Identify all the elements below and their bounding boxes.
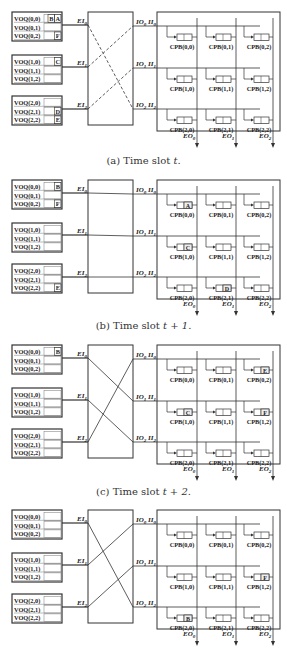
switch-connection xyxy=(88,566,133,607)
eo-arrow-icon xyxy=(271,476,275,481)
voq-label: VOQ(1,2) xyxy=(14,243,40,251)
caption-c-var: t + 2. xyxy=(163,486,191,497)
eo-label-1: EO1 xyxy=(221,132,234,141)
eo-label-0-sub: 0 xyxy=(193,634,196,639)
ei-label-1-sub: 1 xyxy=(84,231,87,236)
voq-label: VOQ(2,1) xyxy=(14,108,40,116)
cpb-label: CPB(1,0) xyxy=(170,583,195,591)
arrow-icon xyxy=(174,204,177,207)
io-label-2-sub: 2 xyxy=(143,273,147,278)
voq-queue xyxy=(44,573,61,581)
packet-A: A xyxy=(186,203,191,209)
ei-label-0: EI0 xyxy=(76,515,87,524)
arrow-icon xyxy=(251,204,254,207)
voq-label: VOQ(1,1) xyxy=(14,565,40,573)
cpb-feed xyxy=(167,524,175,535)
cpb-feed xyxy=(206,194,214,205)
cpb-feed xyxy=(167,26,175,37)
voq-label: VOQ(1,0) xyxy=(14,556,40,564)
ei-label-1-sub: 1 xyxy=(84,561,87,566)
cpb-queue xyxy=(216,117,231,124)
voq-label: VOQ(0,1) xyxy=(14,522,40,530)
io-label-1: IO1 xyxy=(135,228,146,237)
cpb-queue xyxy=(216,574,231,581)
cpb-feed xyxy=(167,607,175,618)
packet-B: B xyxy=(56,183,61,190)
switch-connection xyxy=(88,68,133,109)
cpb-queue xyxy=(254,285,269,292)
voq-label: VOQ(2,0) xyxy=(14,432,40,440)
voq-label: VOQ(0,1) xyxy=(14,24,40,32)
arrow-icon xyxy=(213,36,216,39)
cpb-queue xyxy=(177,450,192,457)
cpb-queue xyxy=(177,117,192,124)
eo-arrow-icon xyxy=(195,476,199,481)
cpb-label: CPB(2,1) xyxy=(209,294,234,302)
switch-connection xyxy=(88,400,133,442)
arrow-icon xyxy=(251,78,254,81)
crossbar-box xyxy=(157,180,280,299)
switch-connection xyxy=(88,25,133,109)
cpb-label: CPB(0,2) xyxy=(247,43,272,51)
packet-D: D xyxy=(225,286,230,292)
arrow-icon xyxy=(174,617,177,620)
io-label-2: IO2 xyxy=(135,434,147,443)
arrow-icon xyxy=(213,411,216,414)
voq-queue xyxy=(44,408,61,416)
cpb-feed xyxy=(206,236,214,247)
voq-queue xyxy=(44,275,61,283)
arrow-icon xyxy=(174,411,177,414)
ii-label-2-sub: 2 xyxy=(152,105,156,110)
io-label-1-sub: 1 xyxy=(144,64,147,69)
cpb-queue xyxy=(177,532,192,539)
io-label-1-sub: 1 xyxy=(144,397,147,402)
ei-label-2: EI2 xyxy=(76,599,87,608)
voq-label: VOQ(0,0) xyxy=(14,183,40,191)
voq-queue xyxy=(44,556,61,564)
cpb-queue xyxy=(254,117,269,124)
panel-a: VOQ(0,0)BAVOQ(0,1)VOQ(0,2)FEI0VOQ(1,0)CV… xyxy=(0,0,287,152)
cpb-feed xyxy=(206,359,214,370)
cpb-feed xyxy=(206,277,214,288)
ei-label-2: EI2 xyxy=(76,269,87,278)
ei-label-1-sub: 1 xyxy=(84,396,87,401)
arrow-icon xyxy=(251,452,254,455)
eo-arrow-icon xyxy=(195,641,199,646)
cpb-feed xyxy=(206,566,214,577)
eo-arrow-icon xyxy=(234,143,238,148)
voq-queue xyxy=(44,399,61,407)
arrow-icon xyxy=(251,36,254,39)
cpb-feed xyxy=(167,236,175,247)
cpb-feed xyxy=(206,524,214,535)
voq-label: VOQ(1,2) xyxy=(14,408,40,416)
cpb-label: CPB(1,2) xyxy=(247,253,272,261)
cpb-feed xyxy=(206,442,214,453)
cpb-label: CPB(2,0) xyxy=(170,459,195,467)
cpb-feed xyxy=(244,68,252,79)
ii-label-1: II1 xyxy=(147,60,156,69)
voq-label: VOQ(1,2) xyxy=(14,573,40,581)
cpb-feed xyxy=(244,566,252,577)
voq-label: VOQ(0,2) xyxy=(14,200,40,208)
crossbar-box xyxy=(157,345,280,464)
cpb-label: CPB(2,1) xyxy=(209,126,234,134)
switch-box xyxy=(88,510,133,623)
switch-box xyxy=(88,345,133,458)
cpb-feed xyxy=(206,109,214,120)
eo-label-1-sub: 1 xyxy=(232,634,235,639)
voq-label: VOQ(1,1) xyxy=(14,400,40,408)
packet-E: E xyxy=(56,284,60,291)
packet-B: B xyxy=(49,15,54,22)
voq-label: VOQ(0,2) xyxy=(14,32,40,40)
cpb-label: CPB(2,0) xyxy=(170,294,195,302)
packet-F: F xyxy=(263,575,267,581)
switch-box xyxy=(88,12,133,125)
io-label-1: IO1 xyxy=(135,60,146,69)
packet-A: A xyxy=(55,15,60,22)
eo-arrow-icon xyxy=(234,476,238,481)
packet-D: D xyxy=(55,108,60,115)
cpb-queue xyxy=(216,244,231,251)
cpb-queue xyxy=(216,450,231,457)
cpb-label: CPB(2,0) xyxy=(170,624,195,632)
arrow-icon xyxy=(251,617,254,620)
